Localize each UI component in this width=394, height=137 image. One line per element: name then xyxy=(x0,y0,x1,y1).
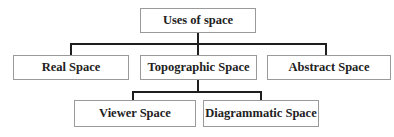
node-uses-of-space: Uses of space xyxy=(140,8,256,33)
node-diagrammatic-space: Diagrammatic Space xyxy=(203,100,319,127)
connector-topographic-space-drop xyxy=(197,43,199,55)
connector-viewer-space-drop xyxy=(132,91,134,100)
node-viewer-space: Viewer Space xyxy=(74,100,196,127)
connector-diagrammatic-space-drop xyxy=(260,91,262,100)
connector-abstract-space-drop xyxy=(325,43,327,55)
uses-of-space-tree-diagram: Uses of space Real Space Topographic Spa… xyxy=(0,0,394,137)
connector-real-space-drop xyxy=(70,43,72,55)
node-abstract-space: Abstract Space xyxy=(267,55,391,80)
connector-level2-bar xyxy=(132,91,262,93)
node-real-space: Real Space xyxy=(13,55,129,80)
node-topographic-space: Topographic Space xyxy=(140,55,257,80)
